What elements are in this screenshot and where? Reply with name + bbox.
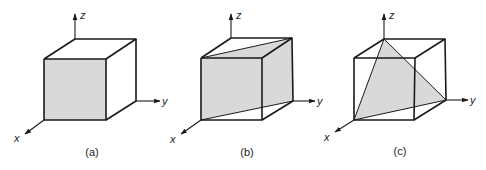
x-axis-a <box>25 120 44 134</box>
panel-a: z y x (a) <box>13 9 169 158</box>
panel-b: z y x (b) <box>169 9 324 158</box>
panel-c: z y x (c) <box>323 9 477 157</box>
x-axis-c <box>335 120 354 132</box>
z-label-b: z <box>235 9 242 21</box>
shaded-plane-b <box>201 38 293 120</box>
cube-planes-figure: z y x (a) z y x (b) <box>0 0 486 170</box>
caption-c: (c) <box>394 145 407 157</box>
x-label-a: x <box>13 132 20 144</box>
z-label-c: z <box>388 9 395 21</box>
caption-b: (b) <box>240 146 253 158</box>
z-label-a: z <box>79 9 86 21</box>
y-label-b: y <box>316 95 324 107</box>
shaded-plane-a <box>44 59 106 120</box>
y-label-a: y <box>161 95 169 107</box>
y-label-c: y <box>469 94 477 106</box>
x-axis-b <box>181 120 201 134</box>
x-label-b: x <box>169 133 176 145</box>
caption-a: (a) <box>85 146 98 158</box>
x-label-c: x <box>323 131 330 143</box>
